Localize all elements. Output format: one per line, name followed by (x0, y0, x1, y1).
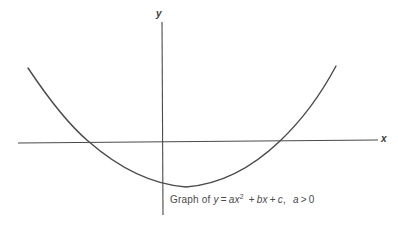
figure-caption: Graph of y=ax2 +bx+c,a>0 (170, 193, 315, 206)
x-axis-line (18, 140, 378, 143)
caption-plus-1: + (247, 194, 257, 205)
caption-zero: 0 (309, 194, 315, 205)
caption-condition-a: a (293, 194, 299, 205)
caption-greater-than: > (299, 194, 309, 205)
parabola-figure: y x Graph of y=ax2 +bx+c,a>0 (0, 0, 398, 228)
caption-prefix: Graph of (170, 194, 211, 205)
caption-equals: = (219, 194, 229, 205)
caption-var-y: y (214, 194, 219, 205)
parabola-curve (28, 66, 336, 187)
y-axis-line (162, 22, 163, 215)
x-axis-label: x (381, 134, 387, 144)
caption-exponent: 2 (240, 193, 244, 200)
caption-plus-2: + (268, 194, 278, 205)
caption-comma: , (283, 194, 286, 205)
y-axis-label: y (156, 9, 162, 19)
